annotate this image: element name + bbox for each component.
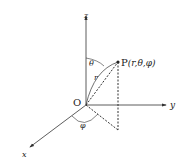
phi-label: φ: [80, 121, 86, 130]
point-label: P(r,θ,φ): [121, 57, 156, 68]
theta-label: θ: [89, 59, 94, 68]
horizontal-projection: [86, 105, 118, 130]
x-axis: [30, 105, 86, 147]
z-axis-label: z: [83, 11, 89, 20]
spherical-coordinates-diagram: z y x O P(r,θ,φ) r θ φ: [0, 0, 185, 168]
radius-line: [86, 62, 118, 105]
point-p: [116, 60, 119, 63]
radius-label: r: [94, 73, 99, 82]
origin-label: O: [73, 97, 81, 108]
x-axis-label: x: [22, 150, 27, 159]
y-axis-label: y: [169, 100, 176, 110]
